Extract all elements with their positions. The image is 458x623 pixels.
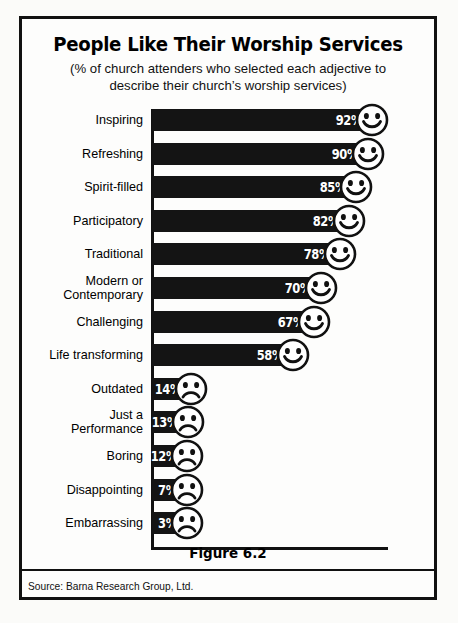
bar: 70% bbox=[152, 277, 315, 299]
smiley-face-icon bbox=[276, 338, 310, 372]
bar-row: Challenging67% bbox=[22, 311, 434, 333]
smiley-face-icon bbox=[323, 237, 357, 271]
frowning-face-icon bbox=[174, 372, 208, 406]
category-label: Spirit-filled bbox=[23, 180, 143, 194]
smiley-face-icon bbox=[297, 305, 331, 339]
source-divider bbox=[22, 569, 434, 571]
bar: 82% bbox=[152, 210, 343, 232]
bar-row: Inspiring92% bbox=[22, 109, 434, 131]
frowning-face-icon bbox=[171, 405, 205, 439]
bar: 67% bbox=[152, 311, 308, 333]
bar-row: Refreshing90% bbox=[22, 143, 434, 165]
bar-row: Boring12% bbox=[22, 445, 434, 467]
smiley-face-icon bbox=[351, 137, 385, 171]
bar-row: Just a Performance13% bbox=[22, 411, 434, 433]
bar: 58% bbox=[152, 344, 287, 366]
bar-row: Participatory82% bbox=[22, 210, 434, 232]
category-label: Inspiring bbox=[23, 113, 143, 127]
category-label: Life transforming bbox=[23, 348, 143, 362]
bar: 78% bbox=[152, 243, 334, 265]
chart-title: People Like Their Worship Services bbox=[36, 33, 419, 56]
frowning-face-icon bbox=[170, 439, 204, 473]
category-label: Boring bbox=[23, 449, 143, 463]
bar-row: Outdated14% bbox=[22, 378, 434, 400]
category-label: Participatory bbox=[23, 214, 143, 228]
frowning-face-icon bbox=[170, 506, 204, 540]
category-label: Outdated bbox=[23, 382, 143, 396]
figure-page: People Like Their Worship Services (% of… bbox=[0, 0, 458, 623]
frowning-face-icon bbox=[170, 473, 204, 507]
smiley-face-icon bbox=[355, 103, 389, 137]
bar-row: Life transforming58% bbox=[22, 344, 434, 366]
category-label: Refreshing bbox=[23, 147, 143, 161]
bar-row: Disappointing7% bbox=[22, 479, 434, 501]
category-label: Disappointing bbox=[23, 483, 143, 497]
category-label: Just a Performance bbox=[23, 408, 143, 436]
category-label: Embarrassing bbox=[23, 516, 143, 530]
bar-row: Embarrassing3% bbox=[22, 512, 434, 534]
source-note: Source: Barna Research Group, Ltd. bbox=[28, 581, 193, 592]
chart-subtitle-line1: (% of church attenders who selected each… bbox=[70, 61, 386, 76]
category-label: Modern or Contemporary bbox=[23, 274, 143, 302]
smiley-face-icon bbox=[339, 170, 373, 204]
category-label: Challenging bbox=[23, 315, 143, 329]
figure-frame: People Like Their Worship Services (% of… bbox=[19, 16, 437, 600]
chart-subtitle-line2: describe their church’s worship services… bbox=[44, 78, 412, 95]
category-label: Traditional bbox=[23, 247, 143, 261]
smiley-face-icon bbox=[332, 204, 366, 238]
smiley-face-icon bbox=[304, 271, 338, 305]
chart-subtitle: (% of church attenders who selected each… bbox=[44, 61, 412, 94]
bar: 85% bbox=[152, 176, 350, 198]
bar: 92% bbox=[152, 109, 366, 131]
bar-chart-plot: Inspiring92%Refreshing90%Spirit-filled85… bbox=[22, 107, 434, 557]
bar-row: Spirit-filled85% bbox=[22, 176, 434, 198]
bar-row: Traditional78% bbox=[22, 243, 434, 265]
bar: 90% bbox=[152, 143, 362, 165]
figure-caption: Figure 6.2 bbox=[36, 545, 419, 561]
bar-row: Modern or Contemporary70% bbox=[22, 277, 434, 299]
